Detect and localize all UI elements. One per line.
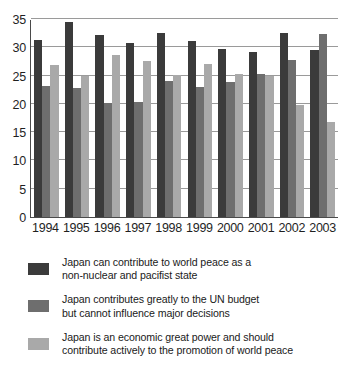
bar <box>65 22 73 217</box>
bar <box>310 50 318 217</box>
bar-group <box>185 20 216 217</box>
bar-group <box>123 20 154 217</box>
legend-label-line: but cannot influence major decisions <box>62 307 259 320</box>
bar <box>235 74 243 217</box>
bar <box>188 41 196 217</box>
legend-swatch <box>28 300 49 312</box>
legend-label-line: non-nuclear and pacifist state <box>62 269 251 282</box>
bar-chart-figure: 05101520253035 1994199519961997199819992… <box>0 0 343 369</box>
x-tick-label: 1999 <box>184 222 215 240</box>
x-tick-label: 1996 <box>92 222 123 240</box>
legend-label: Japan contributes greatly to the UN budg… <box>62 293 259 319</box>
x-tick-label: 2003 <box>307 222 338 240</box>
x-axis-tick-labels: 1994199519961997199819992000200120022003 <box>30 222 338 240</box>
bar-group <box>154 20 185 217</box>
bar <box>319 34 327 217</box>
x-tick-label: 2001 <box>246 222 277 240</box>
bar <box>81 76 89 217</box>
bar-group <box>31 20 62 217</box>
legend-label: Japan is an economic great power and sho… <box>62 331 293 357</box>
bar <box>134 102 142 217</box>
chart-legend: Japan can contribute to world peace as a… <box>28 256 328 368</box>
y-axis-tick-labels: 05101520253035 <box>0 20 26 218</box>
legend-label-line: contribute actively to the promotion of … <box>62 344 293 357</box>
bar <box>112 55 120 217</box>
bar <box>173 75 181 217</box>
bar <box>104 103 112 217</box>
y-tick-label: 30 <box>12 42 26 55</box>
bar <box>280 33 288 217</box>
bar <box>249 52 257 217</box>
bar <box>288 60 296 217</box>
bar <box>34 40 42 217</box>
bar <box>327 122 335 217</box>
legend-swatch <box>28 263 49 275</box>
y-tick-label: 15 <box>12 127 26 140</box>
bar-group <box>246 20 277 217</box>
bar <box>218 49 226 217</box>
plot-area <box>30 20 338 218</box>
y-tick-label: 20 <box>12 99 26 112</box>
bar-group <box>277 20 308 217</box>
legend-swatch <box>28 338 49 350</box>
x-tick-label: 1998 <box>153 222 184 240</box>
bar-group <box>62 20 93 217</box>
legend-item: Japan contributes greatly to the UN budg… <box>28 293 328 319</box>
bar <box>95 35 103 217</box>
bar <box>143 61 151 217</box>
bar <box>226 82 234 217</box>
x-tick-label: 2002 <box>276 222 307 240</box>
legend-label-line: Japan contributes greatly to the UN budg… <box>62 293 259 306</box>
legend-label-line: Japan is an economic great power and sho… <box>62 331 293 344</box>
bar <box>165 81 173 217</box>
legend-item: Japan is an economic great power and sho… <box>28 331 328 357</box>
bar-group <box>215 20 246 217</box>
x-tick-label: 2000 <box>215 222 246 240</box>
gridline <box>31 18 338 19</box>
bar <box>296 105 304 217</box>
bar <box>257 74 265 217</box>
bar <box>265 76 273 217</box>
legend-label: Japan can contribute to world peace as a… <box>62 256 251 282</box>
bar <box>157 33 165 217</box>
y-tick-label: 25 <box>12 70 26 83</box>
bar <box>196 87 204 217</box>
bar <box>42 86 50 217</box>
x-tick-label: 1995 <box>61 222 92 240</box>
bar <box>204 64 212 217</box>
y-tick-label: 35 <box>12 14 26 27</box>
x-tick-label: 1997 <box>122 222 153 240</box>
bar-group <box>307 20 338 217</box>
y-tick-label: 0 <box>19 212 26 225</box>
bar-group <box>92 20 123 217</box>
legend-label-line: Japan can contribute to world peace as a <box>62 256 251 269</box>
y-tick-label: 10 <box>12 155 26 168</box>
legend-item: Japan can contribute to world peace as a… <box>28 256 328 282</box>
bar <box>126 43 134 217</box>
y-tick-label: 5 <box>19 183 26 196</box>
bar-groups <box>31 20 338 217</box>
x-tick-label: 1994 <box>30 222 61 240</box>
bar <box>50 65 58 217</box>
bar <box>73 88 81 217</box>
